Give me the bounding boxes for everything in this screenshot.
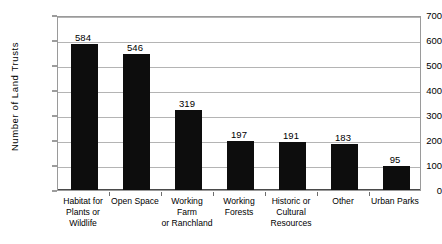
bar <box>383 166 410 190</box>
x-axis-label-line: Cultural <box>265 207 317 218</box>
x-axis-label: Historic orCulturalResources <box>265 196 317 229</box>
x-axis-label-line: Plants or <box>57 207 109 218</box>
x-axis-label-line: Habitat for <box>57 196 109 207</box>
x-axis-label: Other <box>317 196 369 207</box>
bar-value-label: 319 <box>164 99 210 109</box>
y-axis-title: Number of Land Trusts <box>0 0 30 192</box>
x-axis-label-line: Historic or <box>265 196 317 207</box>
x-axis-label-line: Wildlife <box>57 218 109 229</box>
x-axis-label: Urban Parks <box>369 196 421 207</box>
bar <box>331 144 358 190</box>
bar-value-label: 584 <box>60 33 106 43</box>
bar-value-label: 191 <box>268 131 314 141</box>
x-axis-label-line: Urban Parks <box>369 196 421 207</box>
bar <box>123 54 150 191</box>
x-axis-label: Habitat forPlants orWildlife <box>57 196 109 229</box>
bar <box>175 110 202 190</box>
x-axis-label-line: Working <box>213 196 265 207</box>
gridline-400 <box>58 92 420 93</box>
bar-value-label: 197 <box>216 130 262 140</box>
x-axis-label-line: Resources <box>265 218 317 229</box>
gridline-500 <box>58 67 420 68</box>
bar-chart: Number of Land Trusts 010020030040050060… <box>0 0 442 244</box>
bar-value-label: 95 <box>372 155 418 165</box>
x-axis-label: Working Farmor Ranchland <box>161 196 213 229</box>
x-axis-label-line: Forests <box>213 207 265 218</box>
bar-value-label: 546 <box>112 43 158 53</box>
x-axis-label: WorkingForests <box>213 196 265 218</box>
bar <box>227 141 254 190</box>
y-axis-title-label: Number of Land Trusts <box>10 41 21 150</box>
bar <box>279 142 306 190</box>
gridline-300 <box>58 117 420 118</box>
gridline-700 <box>58 17 420 18</box>
bar-value-label: 183 <box>320 133 366 143</box>
x-axis-label-line: Working Farm <box>161 196 213 218</box>
x-axis-label-line: Other <box>317 196 369 207</box>
bar <box>71 44 98 190</box>
x-axis-label-line: Open Space <box>109 196 161 207</box>
x-axis-label-line: or Ranchland <box>161 218 213 229</box>
x-axis-label: Open Space <box>109 196 161 207</box>
